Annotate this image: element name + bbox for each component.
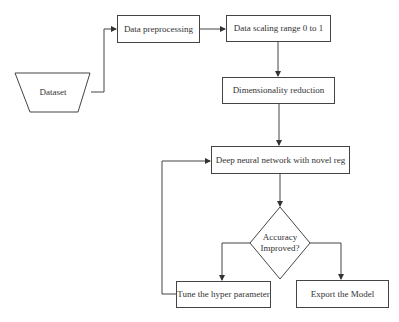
dimensionality-reduction-box: Dimensionality reduction xyxy=(222,77,335,104)
dataset-label: Dataset xyxy=(25,87,81,98)
data-preprocessing-box: Data preprocessing xyxy=(117,15,200,43)
deep-neural-network-box: Deep neural network with novel reg xyxy=(211,146,350,174)
decision-label-line1: Accuracy xyxy=(252,232,308,243)
edge-dataset-preprocessing xyxy=(91,29,116,92)
edge-decision-export xyxy=(310,243,341,279)
edge-decision-tune xyxy=(222,243,250,280)
edge-tune-dnn-loop xyxy=(162,161,210,294)
decision-label-line2: Improved? xyxy=(252,243,308,254)
export-model-box: Export the Model xyxy=(296,280,389,308)
tune-hyperparameter-box: Tune the hyper parameter xyxy=(176,281,271,308)
data-scaling-box: Data scaling range 0 to 1 xyxy=(226,15,331,42)
